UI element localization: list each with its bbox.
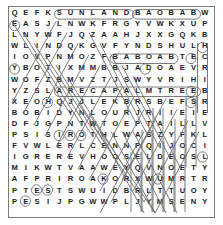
grid-cell[interactable]: N <box>54 51 65 62</box>
grid-cell[interactable]: Z <box>43 74 54 85</box>
grid-cell[interactable]: O <box>20 51 31 62</box>
grid-cell[interactable]: I <box>43 196 54 207</box>
grid-cell[interactable]: O <box>110 151 121 162</box>
grid-cell[interactable]: A <box>87 162 98 173</box>
grid-cell[interactable]: Q <box>76 29 87 40</box>
grid-cell[interactable]: I <box>54 173 65 184</box>
grid-cell[interactable]: Y <box>143 74 154 85</box>
grid-cell[interactable]: J <box>132 29 143 40</box>
grid-cell[interactable]: R <box>166 74 177 85</box>
grid-cell[interactable]: W <box>99 196 110 207</box>
grid-cell[interactable]: O <box>177 140 188 151</box>
grid-cell[interactable]: K <box>188 129 199 140</box>
grid-cell[interactable]: L <box>54 18 65 29</box>
grid-cell[interactable]: F <box>110 40 121 51</box>
grid-cell[interactable]: B <box>132 7 143 18</box>
grid-cell[interactable]: I <box>43 107 54 118</box>
grid-cell[interactable]: I <box>154 107 165 118</box>
grid-cell[interactable]: W <box>87 196 98 207</box>
grid-cell[interactable]: L <box>87 7 98 18</box>
grid-cell[interactable]: K <box>43 7 54 18</box>
grid-cell[interactable]: K <box>99 173 110 184</box>
grid-cell[interactable]: K <box>110 96 121 107</box>
grid-cell[interactable]: T <box>99 74 110 85</box>
grid-cell[interactable]: L <box>143 185 154 196</box>
grid-cell[interactable]: F <box>54 29 65 40</box>
grid-cell[interactable]: A <box>132 129 143 140</box>
grid-cell[interactable]: F <box>20 173 31 184</box>
grid-cell[interactable]: B <box>9 107 20 118</box>
grid-cell[interactable]: B <box>199 29 210 40</box>
grid-cell[interactable]: T <box>20 185 31 196</box>
grid-cell[interactable]: M <box>9 162 20 173</box>
grid-cell[interactable]: K <box>31 162 42 173</box>
grid-cell[interactable]: H <box>43 96 54 107</box>
grid-cell[interactable]: L <box>76 140 87 151</box>
grid-cell[interactable]: L <box>188 40 199 51</box>
grid-cell[interactable]: V <box>76 151 87 162</box>
grid-cell[interactable]: O <box>20 107 31 118</box>
grid-cell[interactable]: E <box>177 196 188 207</box>
grid-cell[interactable]: U <box>188 18 199 29</box>
grid-cell[interactable]: A <box>99 29 110 40</box>
grid-cell[interactable]: I <box>154 140 165 151</box>
grid-cell[interactable]: E <box>121 118 132 129</box>
grid-cell[interactable]: E <box>166 151 177 162</box>
grid-cell[interactable]: M <box>143 85 154 96</box>
grid-cell[interactable]: R <box>199 96 210 107</box>
grid-cell[interactable]: D <box>143 62 154 73</box>
grid-cell[interactable]: L <box>87 96 98 107</box>
grid-cell[interactable]: D <box>121 7 132 18</box>
grid-cell[interactable]: Q <box>9 7 20 18</box>
grid-cell[interactable]: Z <box>87 74 98 85</box>
grid-cell[interactable]: A <box>99 7 110 18</box>
grid-cell[interactable]: I <box>166 107 177 118</box>
grid-cell[interactable]: S <box>154 40 165 51</box>
grid-cell[interactable]: Y <box>143 196 154 207</box>
grid-cell[interactable]: N <box>76 107 87 118</box>
grid-cell[interactable]: E <box>20 196 31 207</box>
grid-cell[interactable]: C <box>87 85 98 96</box>
grid-cell[interactable]: T <box>76 118 87 129</box>
grid-cell[interactable]: G <box>87 40 98 51</box>
grid-cell[interactable]: W <box>76 185 87 196</box>
grid-cell[interactable]: P <box>43 51 54 62</box>
grid-cell[interactable]: Y <box>166 129 177 140</box>
grid-cell[interactable]: U <box>177 40 188 51</box>
grid-cell[interactable]: A <box>54 85 65 96</box>
grid-cell[interactable]: N <box>110 7 121 18</box>
grid-cell[interactable]: H <box>188 74 199 85</box>
grid-cell[interactable]: N <box>43 40 54 51</box>
grid-cell[interactable]: S <box>54 7 65 18</box>
grid-cell[interactable]: U <box>87 185 98 196</box>
grid-cell[interactable]: O <box>154 62 165 73</box>
grid-cell[interactable]: T <box>177 51 188 62</box>
grid-cell[interactable]: O <box>31 96 42 107</box>
grid-cell[interactable]: L <box>199 151 210 162</box>
grid-cell[interactable]: K <box>76 40 87 51</box>
grid-cell[interactable]: E <box>31 185 42 196</box>
grid-cell[interactable]: O <box>154 7 165 18</box>
grid-cell[interactable]: T <box>154 85 165 96</box>
grid-cell[interactable]: S <box>20 129 31 140</box>
grid-cell[interactable]: V <box>188 62 199 73</box>
grid-cell[interactable]: I <box>188 107 199 118</box>
grid-cell[interactable]: M <box>87 62 98 73</box>
grid-cell[interactable]: Q <box>143 140 154 151</box>
grid-cell[interactable]: D <box>154 151 165 162</box>
grid-cell[interactable]: E <box>65 151 76 162</box>
grid-cell[interactable]: A <box>110 29 121 40</box>
grid-cell[interactable]: A <box>121 51 132 62</box>
grid-cell[interactable]: J <box>43 18 54 29</box>
grid-cell[interactable]: Q <box>132 162 143 173</box>
grid-cell[interactable]: V <box>65 162 76 173</box>
grid-cell[interactable]: Y <box>9 85 20 96</box>
grid-cell[interactable]: I <box>199 140 210 151</box>
grid-cell[interactable]: G <box>76 196 87 207</box>
grid-cell[interactable]: S <box>143 129 154 140</box>
grid-cell[interactable]: Q <box>65 40 76 51</box>
grid-cell[interactable]: S <box>43 185 54 196</box>
grid-cell[interactable]: S <box>43 129 54 140</box>
grid-cell[interactable]: E <box>177 107 188 118</box>
grid-cell[interactable]: R <box>65 85 76 96</box>
